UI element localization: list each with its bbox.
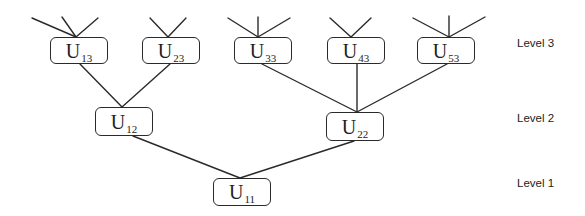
level-1-label: Level 1 <box>517 177 554 189</box>
level-3-label: Level 3 <box>517 37 554 49</box>
node-u12: U12 <box>95 107 153 136</box>
node-u53: U53 <box>417 37 475 64</box>
node-u33: U33 <box>234 37 292 64</box>
node-subscript: 33 <box>265 52 276 64</box>
node-letter: U <box>343 41 357 61</box>
node-subscript: 43 <box>358 52 369 64</box>
node-u13: U13 <box>50 37 108 64</box>
node-letter: U <box>342 117 356 137</box>
node-subscript: 22 <box>357 128 368 140</box>
node-letter: U <box>111 112 125 132</box>
node-subscript: 53 <box>448 52 459 64</box>
node-u22: U22 <box>326 112 384 141</box>
node-letter: U <box>433 41 447 61</box>
connector-lines <box>0 0 585 216</box>
node-subscript: 13 <box>81 52 92 64</box>
node-letter: U <box>229 182 243 202</box>
hierarchy-diagram: U13 U23 U33 U43 U53 U12 U22 U11 Level 3 … <box>0 0 585 216</box>
node-u43: U43 <box>327 37 385 64</box>
node-letter: U <box>158 41 172 61</box>
node-letter: U <box>250 41 264 61</box>
incoming-stubs <box>32 16 485 37</box>
node-u23: U23 <box>142 37 200 64</box>
node-subscript: 23 <box>173 52 184 64</box>
node-u11: U11 <box>213 178 271 206</box>
level-2-label: Level 2 <box>517 112 554 124</box>
node-subscript: 12 <box>126 123 137 135</box>
node-letter: U <box>66 41 80 61</box>
node-subscript: 11 <box>244 193 255 205</box>
